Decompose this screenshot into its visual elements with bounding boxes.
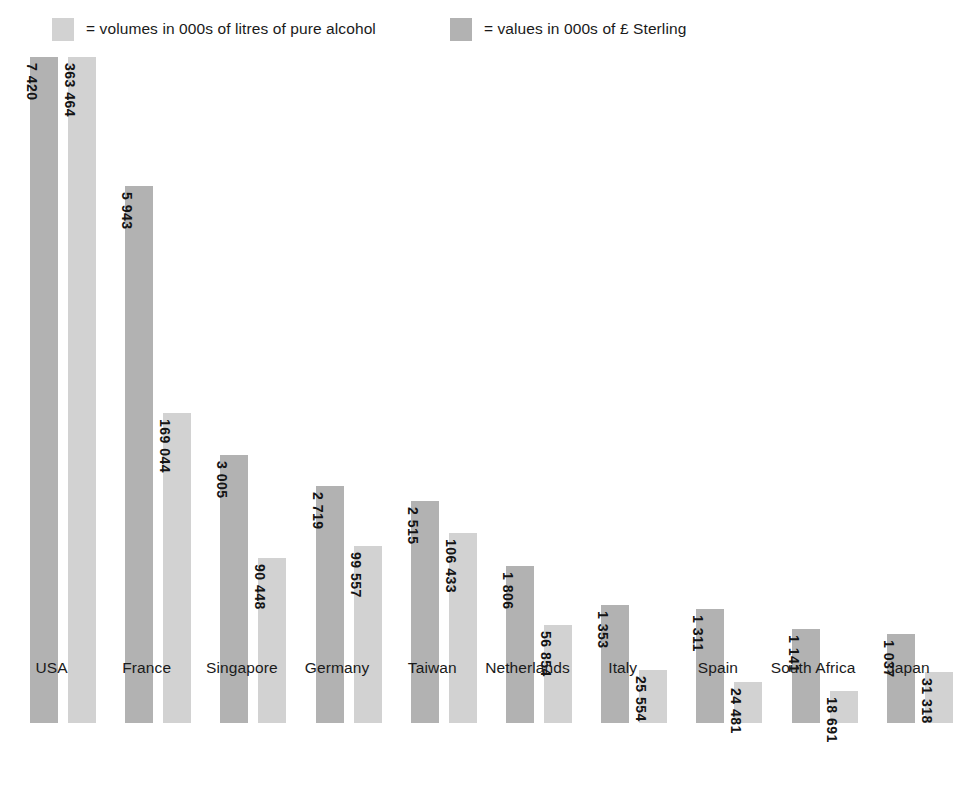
bar-value-label: 24 481 [729, 688, 743, 734]
legend-label-values: = values in 000s of £ Sterling [484, 20, 686, 38]
bar-pair: 2 515106 433 [385, 46, 480, 723]
bar-pair: 1 31124 481 [670, 46, 765, 723]
bar-value-label: 90 448 [253, 564, 267, 610]
bar-chart: = volumes in 000s of litres of pure alco… [0, 0, 975, 803]
bar-group: 3 00590 448Singapore [194, 46, 289, 723]
bar-volumes: 18 691 [830, 691, 858, 723]
bar-value-label: 1 311 [691, 615, 705, 652]
bar-value-label: 363 464 [63, 63, 77, 117]
category-label: Germany [290, 659, 385, 677]
legend-label-volumes: = volumes in 000s of litres of pure alco… [86, 20, 376, 38]
bar-pair: 7 420363 464 [4, 46, 99, 723]
category-label: Singapore [194, 659, 289, 677]
category-label: Taiwan [385, 659, 480, 677]
bar-values: 5 943 [125, 186, 153, 723]
bar-pair: 2 71999 557 [290, 46, 385, 723]
bar-pair: 1 14118 691 [766, 46, 861, 723]
bar-value-label: 18 691 [825, 697, 839, 743]
category-label: USA [4, 659, 99, 677]
bar-volumes: 106 433 [449, 533, 477, 723]
bar-value-label: 2 719 [311, 492, 325, 530]
bar-pair: 5 943169 044 [99, 46, 194, 723]
bar-volumes: 99 557 [354, 546, 382, 723]
legend-entry-volumes: = volumes in 000s of litres of pure alco… [52, 18, 376, 41]
bar-values: 2 515 [411, 501, 439, 723]
bar-group: 1 14118 691South Africa [766, 46, 861, 723]
bar-values: 3 005 [220, 455, 248, 723]
bar-value-label: 169 044 [158, 419, 172, 473]
bar-volumes: 24 481 [734, 682, 762, 723]
bar-values: 7 420 [30, 57, 58, 723]
legend-swatch-light-icon [52, 18, 74, 41]
bar-value-label: 7 420 [25, 63, 39, 101]
bar-values: 2 719 [316, 486, 344, 723]
chart-legend: = volumes in 000s of litres of pure alco… [0, 12, 975, 46]
bar-group: 1 35325 554Italy [575, 46, 670, 723]
bar-pair: 1 35325 554 [575, 46, 670, 723]
bar-value-label: 99 557 [349, 552, 363, 598]
bar-group: 1 31124 481Spain [670, 46, 765, 723]
bar-value-label: 1 806 [501, 572, 515, 610]
bar-volumes: 363 464 [68, 57, 96, 723]
legend-entry-values: = values in 000s of £ Sterling [450, 18, 686, 41]
category-label: Netherlands [480, 659, 575, 677]
bar-value-label: 1 353 [596, 611, 610, 649]
bar-group: 2 515106 433Taiwan [385, 46, 480, 723]
category-label: Japan [861, 659, 956, 677]
bar-group: 1 03731 318Japan [861, 46, 956, 723]
bar-value-label: 25 554 [634, 676, 648, 722]
bar-group: 1 80656 854Netherlands [480, 46, 575, 723]
bar-group: 2 71999 557Germany [290, 46, 385, 723]
bar-value-label: 2 515 [406, 507, 420, 545]
plot-area: 7 420363 464USA5 943169 044France3 00590… [0, 46, 975, 803]
bar-value-label: 3 005 [215, 461, 229, 499]
legend-swatch-dark-icon [450, 18, 472, 41]
bar-volumes: 90 448 [258, 558, 286, 723]
bar-volumes: 25 554 [639, 670, 667, 723]
bar-pair: 1 03731 318 [861, 46, 956, 723]
category-label: Italy [575, 659, 670, 677]
category-label: Spain [670, 659, 765, 677]
bar-pair: 3 00590 448 [194, 46, 289, 723]
bar-values: 1 806 [506, 566, 534, 723]
bar-value-label: 106 433 [444, 539, 458, 593]
bar-value-label: 31 318 [920, 678, 934, 724]
bar-pair: 1 80656 854 [480, 46, 575, 723]
bar-volumes: 31 318 [925, 672, 953, 723]
category-label: France [99, 659, 194, 677]
bar-values: 1 037 [887, 634, 915, 723]
bar-group: 5 943169 044France [99, 46, 194, 723]
bar-group: 7 420363 464USA [4, 46, 99, 723]
category-label: South Africa [766, 659, 861, 677]
bar-value-label: 5 943 [120, 192, 134, 230]
